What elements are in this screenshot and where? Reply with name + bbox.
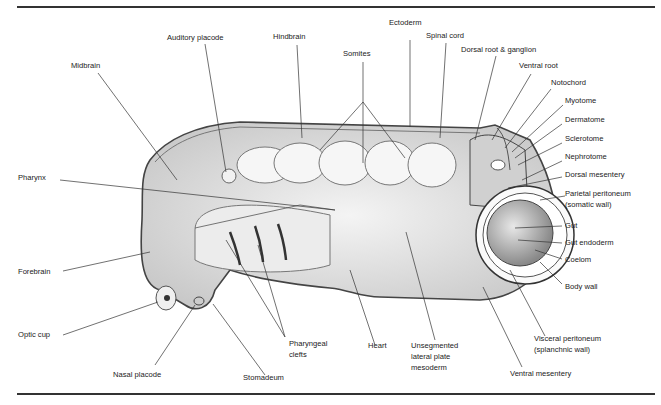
label-pharyngeal-clefts: Pharyngeal xyxy=(289,339,327,349)
label-nephrotome: Nephrotome xyxy=(565,152,607,162)
label-somatic-wall: (somatic wall) xyxy=(565,200,611,210)
label-ectoderm: Ectoderm xyxy=(389,18,422,28)
label-hindbrain: Hindbrain xyxy=(273,32,306,42)
label-midbrain: Midbrain xyxy=(71,61,100,71)
label-lateral-plate-2: lateral plate xyxy=(411,352,450,362)
label-ventral-root: Ventral root xyxy=(519,61,558,71)
label-forebrain: Forebrain xyxy=(18,267,51,277)
label-lateral-plate: Unsegmented xyxy=(411,341,458,351)
label-ventral-mesentery: Ventral mesentery xyxy=(510,369,571,379)
label-sclerotome: Sclerotome xyxy=(565,134,603,144)
label-body-wall: Body wall xyxy=(565,282,598,292)
label-dermatome: Dermatome xyxy=(565,115,605,125)
label-gut: Gut xyxy=(565,221,577,231)
label-visceral-peritoneum: Visceral peritoneum xyxy=(534,334,601,344)
label-lateral-plate-3: mesoderm xyxy=(411,363,447,373)
label-heart: Heart xyxy=(368,341,387,351)
label-spinal-cord: Spinal cord xyxy=(426,31,464,41)
label-dorsal-root-ganglion: Dorsal root & ganglion xyxy=(461,45,536,55)
label-notochord: Notochord xyxy=(551,78,586,88)
label-optic-cup: Optic cup xyxy=(18,330,50,340)
label-gut-endoderm: Gut endoderm xyxy=(565,238,614,248)
label-nasal-placode: Nasal placode xyxy=(113,370,161,380)
label-dorsal-mesentery: Dorsal mesentery xyxy=(565,170,625,180)
label-coelom: Coelom xyxy=(565,255,591,265)
label-somites: Somites xyxy=(343,49,370,59)
label-parietal-peritoneum: Parietal peritoneum xyxy=(565,189,631,199)
label-stomadeum: Stomadeum xyxy=(243,373,284,383)
label-auditory-placode: Auditory placode xyxy=(167,33,224,43)
label-pharyngeal-clefts-2: clefts xyxy=(289,350,307,360)
label-pharynx: Pharynx xyxy=(18,173,46,183)
label-splanchnic-wall: (splanchnic wall) xyxy=(534,345,590,355)
label-myotome: Myotome xyxy=(565,96,596,106)
